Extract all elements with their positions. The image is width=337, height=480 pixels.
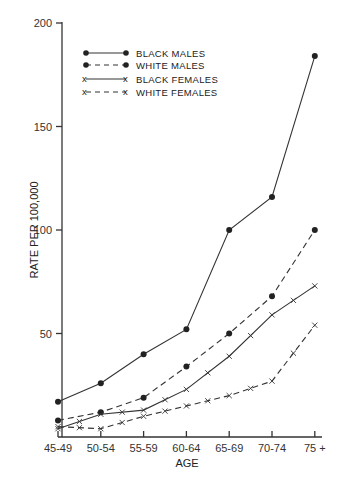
series-white-females xyxy=(55,323,317,432)
x-tick-label: 65-69 xyxy=(215,442,243,454)
dot-marker-icon xyxy=(269,194,275,200)
y-tick-label: 50 xyxy=(40,328,52,340)
y-axis: 50100150200 RATE PER 100,000 xyxy=(28,17,62,437)
plot-area xyxy=(55,53,318,431)
y-tick-label: 200 xyxy=(34,17,52,29)
series-white-males xyxy=(55,227,318,423)
x-tick-label: 60-64 xyxy=(172,442,200,454)
dot-marker-icon xyxy=(123,50,129,56)
y-tick-label: 150 xyxy=(34,121,52,133)
x-marker-icon xyxy=(205,370,210,375)
dot-marker-icon xyxy=(83,62,89,68)
x-marker-icon: x xyxy=(123,86,128,97)
dot-marker-icon xyxy=(83,50,89,56)
x-marker-icon: x xyxy=(82,86,87,97)
x-marker-icon xyxy=(269,379,274,384)
x-tick-label: 75 + xyxy=(304,442,326,454)
x-marker-icon xyxy=(312,283,317,288)
legend-item-black-females: x x BLACK FEMALES xyxy=(82,73,218,85)
legend-label: BLACK FEMALES xyxy=(136,74,218,85)
dot-marker-icon xyxy=(183,326,189,332)
legend-item-black-males: BLACK MALES xyxy=(83,48,205,59)
x-marker-icon xyxy=(162,397,167,402)
x-tick-label: 45-49 xyxy=(44,442,72,454)
x-axis: 45-4950-5455-5960-6465-6970-7475 + AGE xyxy=(44,431,326,469)
dot-marker-icon xyxy=(312,53,318,59)
legend-label: BLACK MALES xyxy=(136,48,205,59)
series-black-males xyxy=(55,53,318,405)
dot-marker-icon xyxy=(123,62,129,68)
line-chart: 50100150200 RATE PER 100,000 45-4950-545… xyxy=(0,0,337,480)
x-marker-icon xyxy=(291,351,296,356)
dot-marker-icon xyxy=(226,331,232,337)
x-marker-icon xyxy=(248,333,253,338)
dot-marker-icon xyxy=(226,227,232,233)
x-tick-label: 55-59 xyxy=(130,442,158,454)
y-axis-title: RATE PER 100,000 xyxy=(28,181,40,278)
x-tick-label: 50-54 xyxy=(87,442,115,454)
x-marker-icon xyxy=(227,354,232,359)
dot-marker-icon xyxy=(269,293,275,299)
dot-marker-icon xyxy=(98,380,104,386)
x-marker-icon xyxy=(184,387,189,392)
dot-marker-icon xyxy=(183,364,189,370)
x-marker-icon: x xyxy=(82,73,87,84)
x-marker-icon xyxy=(248,386,253,391)
x-tick-label: 70-74 xyxy=(258,442,286,454)
x-marker-icon: x xyxy=(123,73,128,84)
x-marker-icon xyxy=(312,323,317,328)
x-marker-icon xyxy=(291,298,296,303)
x-marker-icon xyxy=(77,419,82,424)
legend-item-white-females: x x WHITE FEMALES xyxy=(82,86,218,98)
legend: BLACK MALES WHITE MALES x x BLACK FEMALE… xyxy=(82,48,218,98)
dot-marker-icon xyxy=(312,227,318,233)
dot-marker-icon xyxy=(141,395,147,401)
dot-marker-icon xyxy=(141,351,147,357)
dot-marker-icon xyxy=(55,399,61,405)
x-axis-title: AGE xyxy=(175,457,198,469)
dot-marker-icon xyxy=(55,417,61,423)
legend-item-white-males: WHITE MALES xyxy=(83,60,205,71)
legend-label: WHITE FEMALES xyxy=(136,87,218,98)
x-marker-icon xyxy=(269,312,274,317)
series-black-females xyxy=(55,283,317,431)
legend-label: WHITE MALES xyxy=(136,60,205,71)
